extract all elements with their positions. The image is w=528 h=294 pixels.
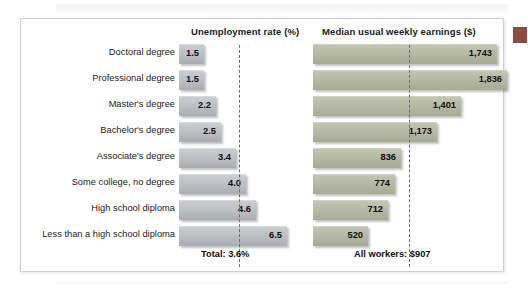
unemployment-total-label: Total: 3.6% <box>201 249 249 259</box>
unemployment-bar: 3.4 <box>179 148 236 168</box>
earnings-bar: 1,401 <box>313 96 461 116</box>
unemployment-value-label: 4.6 <box>238 204 251 214</box>
unemployment-bar: 6.5 <box>179 226 287 246</box>
category-label: Doctoral degree <box>109 47 175 57</box>
chart-row: Less than a high school diploma6.5520 <box>21 226 505 246</box>
chart-row: Bachelor's degree2.51,173 <box>21 122 505 142</box>
unemployment-value-label: 6.5 <box>269 230 282 240</box>
category-label: Bachelor's degree <box>100 125 175 135</box>
category-label: High school diploma <box>91 203 175 213</box>
chart-row: Associate's degree3.4836 <box>21 148 505 168</box>
earnings-bar: 1,173 <box>313 122 437 142</box>
chart-row: Professional degree1.51,836 <box>21 70 505 90</box>
earnings-value-label: 712 <box>367 204 383 214</box>
earnings-value-label: 836 <box>380 152 396 162</box>
chart-figure: Unemployment rate (%) Median usual weekl… <box>20 18 504 272</box>
unemployment-value-label: 1.5 <box>186 74 199 84</box>
unemployment-bar: 4.6 <box>179 200 256 220</box>
earnings-allworkers-label: All workers: $907 <box>354 249 430 259</box>
earnings-value-label: 774 <box>374 178 390 188</box>
earnings-bar: 836 <box>313 148 401 168</box>
earnings-value-label: 1,401 <box>433 100 456 110</box>
category-label: Some college, no degree <box>72 177 175 187</box>
chart-plot-area: Doctoral degree1.51,743Professional degr… <box>21 19 503 271</box>
unemployment-bar: 2.5 <box>179 122 221 142</box>
earnings-value-label: 1,743 <box>469 48 492 58</box>
earnings-bar: 1,743 <box>313 44 497 64</box>
chart-row: Some college, no degree4.0774 <box>21 174 505 194</box>
unemployment-reference-line <box>239 45 240 267</box>
unemployment-value-label: 3.4 <box>218 152 231 162</box>
chart-row: Master's degree2.21,401 <box>21 96 505 116</box>
earnings-value-label: 520 <box>347 230 363 240</box>
chart-row: Doctoral degree1.51,743 <box>21 44 505 64</box>
earnings-bar: 520 <box>313 226 368 246</box>
earnings-value-label: 1,173 <box>409 126 432 136</box>
earnings-value-label: 1,836 <box>479 74 502 84</box>
page-bottom-rule <box>56 282 508 285</box>
category-label: Professional degree <box>92 73 175 83</box>
unemployment-bar: 4.0 <box>179 174 246 194</box>
page-top-band <box>56 4 508 13</box>
earnings-bar: 774 <box>313 174 395 194</box>
category-label: Less than a high school diploma <box>42 229 175 239</box>
corner-color-mark <box>512 26 528 44</box>
chart-row: High school diploma4.6712 <box>21 200 505 220</box>
unemployment-value-label: 1.5 <box>186 48 199 58</box>
earnings-bar: 712 <box>313 200 388 220</box>
unemployment-bar: 1.5 <box>179 44 204 64</box>
category-label: Master's degree <box>109 99 175 109</box>
category-label: Associate's degree <box>97 151 175 161</box>
unemployment-value-label: 2.5 <box>203 126 216 136</box>
unemployment-bar: 2.2 <box>179 96 216 116</box>
unemployment-value-label: 2.2 <box>198 100 211 110</box>
earnings-reference-line <box>409 45 410 267</box>
earnings-bar: 1,836 <box>313 70 507 90</box>
unemployment-bar: 1.5 <box>179 70 204 90</box>
